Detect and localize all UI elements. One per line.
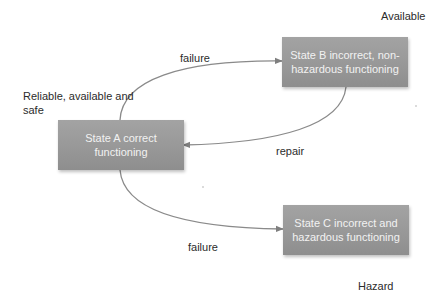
edge-a-to-b	[120, 61, 282, 120]
edge-a-to-c-label: failure	[188, 240, 218, 254]
state-b-annotation: Available	[381, 9, 425, 23]
state-c-box: State C incorrect and hazardous function…	[283, 205, 409, 255]
scan-speck	[202, 186, 204, 188]
state-a-annotation: Reliable, available and safe	[23, 89, 138, 117]
state-c-annotation: Hazard	[358, 279, 393, 293]
state-b-label: State B incorrect, non-hazardous functio…	[288, 48, 402, 76]
state-a-label: State A correct functioning	[64, 131, 178, 159]
state-c-label: State C incorrect and hazardous function…	[289, 216, 403, 244]
edge-b-to-a-label: repair	[276, 144, 304, 158]
state-a-box: State A correct functioning	[58, 120, 184, 170]
scan-speck	[415, 105, 417, 107]
edge-b-to-a	[183, 87, 346, 145]
state-b-box: State B incorrect, non-hazardous functio…	[282, 37, 408, 87]
state-diagram: State A correct functioning State B inco…	[0, 0, 436, 301]
edge-a-to-b-label: failure	[180, 51, 210, 65]
edge-a-to-c	[120, 170, 283, 229]
